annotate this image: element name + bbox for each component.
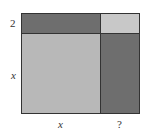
region-top-right xyxy=(100,13,140,34)
horizontal-divider xyxy=(21,33,140,34)
region-top-left xyxy=(21,13,101,34)
label-bottom-right: ? xyxy=(117,119,122,130)
region-bottom-right xyxy=(100,33,140,114)
label-bottom-left: x xyxy=(58,119,63,130)
vertical-divider xyxy=(100,13,101,114)
label-left-bottom: x xyxy=(11,70,16,81)
label-left-top: 2 xyxy=(10,18,16,29)
region-bottom-left xyxy=(21,33,101,114)
